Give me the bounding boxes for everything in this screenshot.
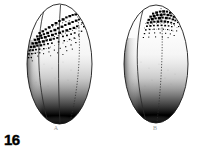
panel-label-b: B [148,125,162,132]
panel-label-a: A [49,125,63,132]
egg-b-left-edge-shading [124,38,157,123]
figure-illustration: 16 A B [0,0,200,154]
egg-diagram-svg [0,0,200,154]
figure-number: 16 [4,132,20,148]
egg-a-left-edge-shading [27,40,61,124]
